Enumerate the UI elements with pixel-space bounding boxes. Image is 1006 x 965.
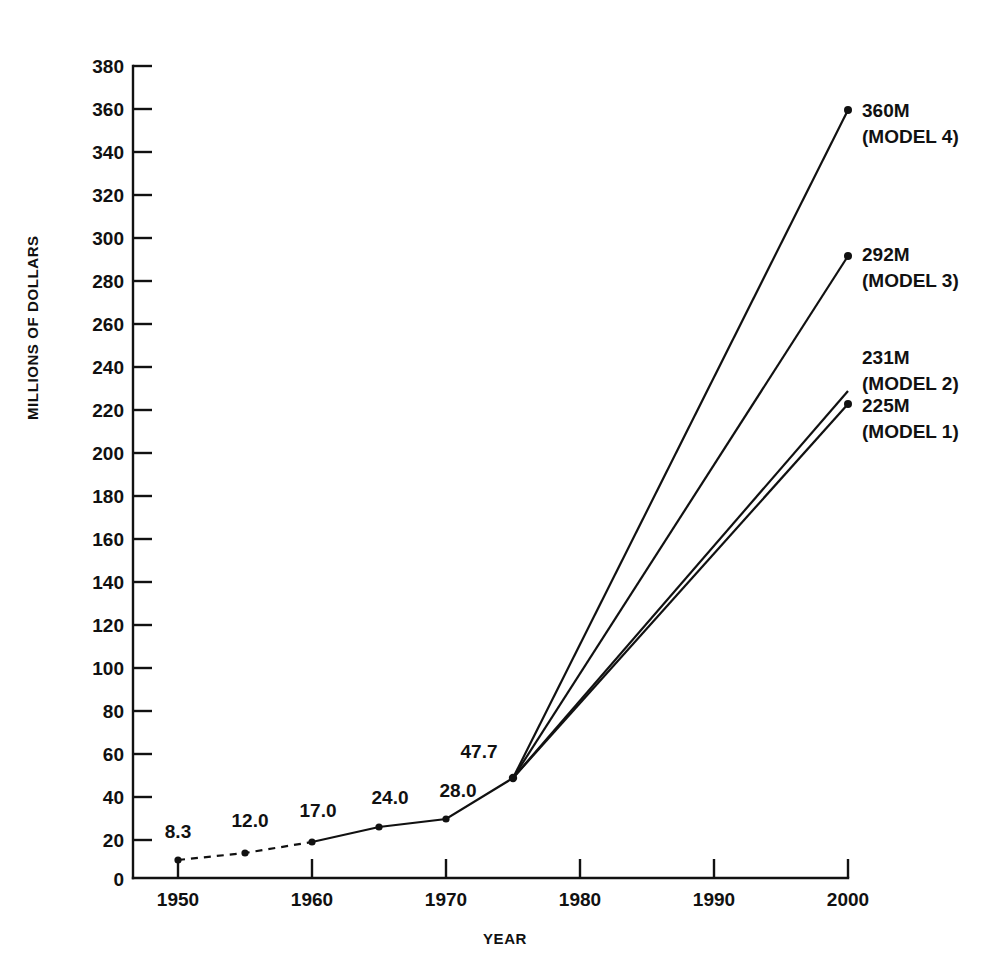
y-tick-label-140: 140 [92,572,124,593]
annotation-model-1-name: (MODEL 1) [862,421,959,442]
annotation-model-2-value: 231M [862,347,910,368]
y-tick-label-260: 260 [92,314,124,335]
y-tick-label-60: 60 [103,744,124,765]
endpoint-marker-model-3 [844,252,852,260]
y-tick-label-0: 0 [113,869,124,890]
y-tick-label-200: 200 [92,443,124,464]
x-tick-label-1990: 1990 [693,889,735,910]
data-point-1950 [174,856,181,863]
y-tick-label-120: 120 [92,615,124,636]
projection-line-model-3 [513,256,848,778]
x-tick-label-1980: 1980 [559,889,601,910]
data-point-1955 [241,849,248,856]
endpoint-marker-model-4 [844,106,852,114]
annotation-model-4-value: 360M [862,100,910,121]
annotation-model-2-name: (MODEL 2) [862,373,959,394]
y-tick-label-220: 220 [92,400,124,421]
data-label-12-0: 12.0 [232,810,269,831]
line-chart: MILLIONS OF DOLLARS YEAR 380 360 340 320… [0,0,1006,965]
y-tick-label-280: 280 [92,271,124,292]
x-tick-label-2000: 2000 [827,889,869,910]
x-axis-title: YEAR [483,930,527,947]
y-axis-title: MILLIONS OF DOLLARS [24,235,41,420]
y-tick-label-240: 240 [92,357,124,378]
y-tick-label-20: 20 [103,830,124,851]
data-label-8-3: 8.3 [165,821,191,842]
x-tick-label-1950: 1950 [157,889,199,910]
y-tick-label-340: 340 [92,142,124,163]
y-tick-label-100: 100 [92,658,124,679]
x-tick-label-1970: 1970 [425,889,467,910]
annotation-model-1-value: 225M [862,395,910,416]
data-label-17-0: 17.0 [300,800,337,821]
annotation-model-3-name: (MODEL 3) [862,270,959,291]
annotation-model-3-value: 292M [862,244,910,265]
data-label-24-0: 24.0 [372,787,409,808]
y-tick-label-160: 160 [92,529,124,550]
y-tick-label-180: 180 [92,486,124,507]
y-tick-label-320: 320 [92,185,124,206]
data-point-1970 [442,815,449,822]
y-tick-label-40: 40 [103,787,124,808]
projection-line-model-2 [513,391,848,778]
x-tick-label-1960: 1960 [291,889,333,910]
data-point-1975 [509,774,517,782]
data-point-1960 [308,838,315,845]
projection-line-model-1 [513,404,848,778]
data-label-47-7: 47.7 [461,741,498,762]
projection-line-model-4 [513,110,848,778]
annotation-model-4-name: (MODEL 4) [862,126,959,147]
y-tick-label-80: 80 [103,701,124,722]
data-label-28-0: 28.0 [440,780,477,801]
y-tick-label-360: 360 [92,99,124,120]
chart-container: MILLIONS OF DOLLARS YEAR 380 360 340 320… [0,0,1006,965]
y-tick-label-380: 380 [92,56,124,77]
y-tick-label-300: 300 [92,228,124,249]
endpoint-marker-model-1 [844,400,852,408]
historical-solid-segment [312,778,513,842]
data-point-1965 [375,823,382,830]
